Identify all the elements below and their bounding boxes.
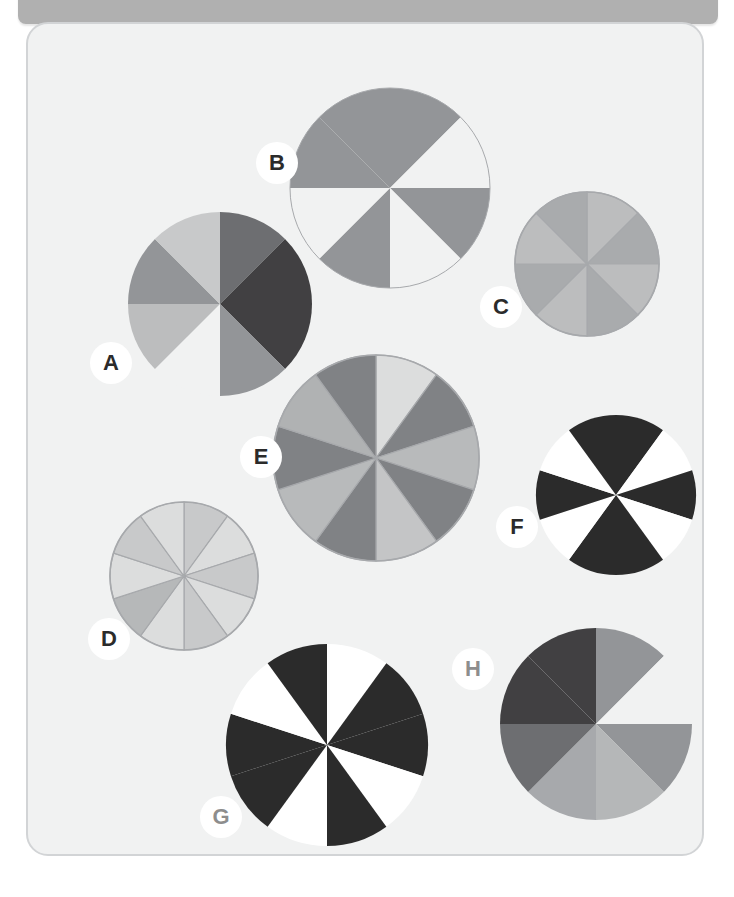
chart-label-badge-e: E: [240, 436, 282, 478]
header-bar: Reading Pie Charts: [18, 0, 718, 24]
chart-label-badge-c: C: [480, 286, 522, 328]
pie-chart-e: [267, 349, 485, 567]
chart-label-text: A: [103, 350, 119, 376]
worksheet-card: ABCDEFGH: [26, 22, 704, 856]
chart-label-text: G: [212, 804, 229, 830]
chart-label-text: D: [101, 626, 117, 652]
pie-chart-b: [284, 82, 496, 294]
chart-label-text: E: [254, 444, 269, 470]
pie-chart-g: [220, 638, 434, 852]
chart-label-badge-d: D: [88, 618, 130, 660]
pie-chart-f: [530, 409, 702, 581]
chart-label-badge-h: H: [452, 648, 494, 690]
chart-label-badge-b: B: [256, 142, 298, 184]
chart-label-text: B: [269, 150, 285, 176]
pie-chart-c: [509, 186, 665, 342]
chart-label-badge-a: A: [90, 342, 132, 384]
chart-label-text: C: [493, 294, 509, 320]
chart-label-text: F: [510, 514, 523, 540]
chart-label-badge-g: G: [200, 796, 242, 838]
chart-label-badge-f: F: [496, 506, 538, 548]
pie-chart-h: [494, 622, 698, 826]
chart-label-text: H: [465, 656, 481, 682]
